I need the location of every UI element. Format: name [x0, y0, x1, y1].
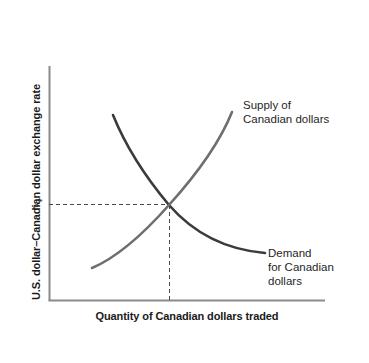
equilibrium-tick-label: e* [33, 196, 43, 212]
x-axis-title: Quantity of Canadian dollars traded [49, 310, 325, 322]
demand-curve-label: Demand for Canadian dollars [268, 246, 334, 288]
y-axis-title: U.S. dollar–Canadian dollar exchange rat… [30, 0, 43, 300]
supply-curve-label-line-1: Supply of [243, 98, 329, 112]
demand-curve-label-line-1: Demand [268, 246, 334, 260]
demand-curve-label-line-2: for Canadian [268, 260, 334, 274]
demand-curve-label-line-3: dollars [268, 274, 334, 288]
equilibrium-star: * [38, 197, 43, 207]
supply-curve-label: Supply of Canadian dollars [243, 98, 329, 126]
supply-curve-label-line-2: Canadian dollars [243, 112, 329, 126]
chart-background [0, 0, 369, 363]
supply-demand-chart [0, 0, 369, 363]
